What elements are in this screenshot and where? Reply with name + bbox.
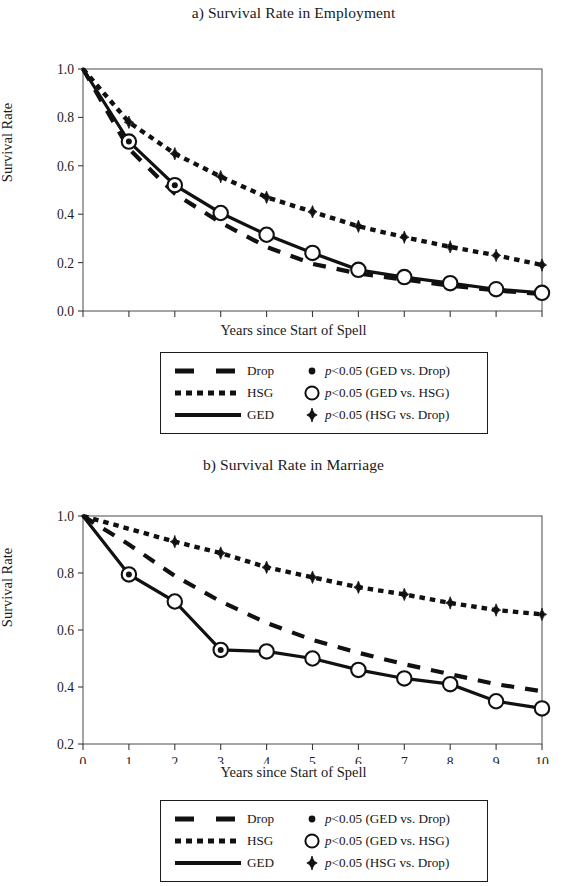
legend-p-text: <0.05 (HSG vs. Drop) [332,855,450,871]
panel-a-chart-svg: 0.00.20.40.60.81.0012345678910 [0,22,587,322]
legend-line-sample-drop [173,360,247,382]
svg-text:0.2: 0.2 [57,256,74,271]
legend-p-text: <0.05 (GED vs. HSG) [332,833,450,849]
svg-text:0.8: 0.8 [57,566,74,581]
legend-line-sample-hsg [173,382,247,404]
panel-b-plot-area: Survival Rate 0.20.40.60.81.001234567891… [0,474,587,781]
legend-p-symbol: p [325,811,332,827]
legend-marker-small-dot-icon [299,360,325,382]
legend-p-symbol: p [325,855,332,871]
legend-p-symbol: p [325,407,332,423]
panel-b-title: b) Survival Rate in Marriage [0,452,587,474]
legend-marker-small-dot-icon [299,808,325,830]
svg-text:6: 6 [355,755,362,764]
svg-text:0.4: 0.4 [57,680,74,695]
legend-series-label-drop: Drop [247,360,299,382]
svg-text:0.6: 0.6 [57,623,74,638]
panel-a-title: a) Survival Rate in Employment [0,0,587,22]
legend-p-symbol: p [325,363,332,379]
legend-series-label-hsg: HSG [247,830,299,852]
legend-marker-open-circle-icon [299,382,325,404]
svg-text:2: 2 [171,755,178,764]
svg-text:5: 5 [309,755,316,764]
legend-p-text: <0.05 (HSG vs. Drop) [332,407,450,423]
legend-p-text: <0.05 (GED vs. HSG) [332,385,450,401]
panel-a-legend: Dropp<0.05 (GED vs. Drop)HSGp<0.05 (GED … [160,352,488,434]
panel-employment: a) Survival Rate in Employment Survival … [0,0,587,445]
legend-marker-filled-diamond-icon [299,852,325,874]
legend-p-symbol: p [325,833,332,849]
svg-text:3: 3 [217,755,224,764]
panel-a-y-axis-label: Survival Rate [0,103,16,182]
legend-significance-note: p<0.05 (GED vs. HSG) [325,382,477,404]
legend-significance-note: p<0.05 (GED vs. Drop) [325,360,477,382]
svg-text:10: 10 [535,755,549,764]
svg-text:1.0: 1.0 [57,509,74,524]
legend-significance-note: p<0.05 (HSG vs. Drop) [325,404,477,426]
svg-text:1: 1 [126,755,133,764]
legend-series-label-ged: GED [247,404,299,426]
legend-p-text: <0.05 (GED vs. Drop) [332,811,450,827]
panel-b-legend: Dropp<0.05 (GED vs. Drop)HSGp<0.05 (GED … [160,800,488,882]
legend-significance-note: p<0.05 (HSG vs. Drop) [325,852,477,874]
svg-text:0.6: 0.6 [57,159,74,174]
svg-text:1.0: 1.0 [57,62,74,77]
svg-text:9: 9 [493,755,500,764]
svg-text:0.0: 0.0 [57,304,74,319]
svg-text:0.4: 0.4 [57,207,74,222]
legend-marker-filled-diamond-icon [299,404,325,426]
panel-a-x-axis-label: Years since Start of Spell [0,322,587,339]
legend-significance-note: p<0.05 (GED vs. Drop) [325,808,477,830]
legend-marker-open-circle-icon [299,830,325,852]
legend-line-sample-drop [173,808,247,830]
svg-text:0.2: 0.2 [57,737,74,752]
svg-text:0: 0 [80,755,87,764]
legend-p-text: <0.05 (GED vs. Drop) [332,363,450,379]
legend-p-symbol: p [325,385,332,401]
panel-b-y-axis-label: Survival Rate [0,548,16,627]
svg-text:8: 8 [447,755,454,764]
legend-line-sample-hsg [173,830,247,852]
legend-series-label-hsg: HSG [247,382,299,404]
legend-series-label-ged: GED [247,852,299,874]
svg-text:7: 7 [401,755,408,764]
legend-series-label-drop: Drop [247,808,299,830]
panel-marriage: b) Survival Rate in Marriage Survival Ra… [0,452,587,886]
legend-line-sample-ged [173,404,247,426]
panel-b-x-axis-label: Years since Start of Spell [0,764,587,781]
panel-b-chart-svg: 0.20.40.60.81.0012345678910 [0,474,587,764]
svg-text:0.8: 0.8 [57,110,74,125]
legend-line-sample-ged [173,852,247,874]
legend-significance-note: p<0.05 (GED vs. HSG) [325,830,477,852]
panel-a-plot-area: Survival Rate 0.00.20.40.60.81.001234567… [0,22,587,339]
svg-text:4: 4 [263,755,270,764]
